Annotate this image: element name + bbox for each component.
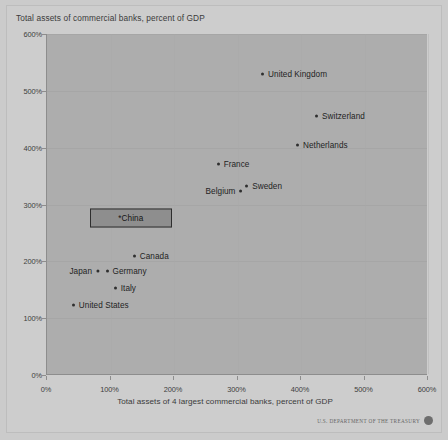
datapoint-label: *China	[118, 213, 143, 222]
datapoint-label: Belgium	[206, 186, 236, 195]
x-tick-label: 600%	[418, 385, 437, 394]
datapoint-label: Sweden	[252, 182, 282, 191]
plot-area: United KingdomSwitzerlandNetherlandsFran…	[46, 34, 427, 375]
datapoint-label: Italy	[121, 284, 136, 293]
vertical-gridline	[111, 34, 112, 374]
vertical-gridline	[174, 34, 175, 374]
x-tick-mark	[364, 376, 365, 380]
y-tick-mark	[42, 148, 46, 149]
datapoint-marker	[296, 143, 299, 146]
datapoint[interactable]: United Kingdom	[261, 69, 327, 78]
y-tick-mark	[42, 318, 46, 319]
datapoint-marker	[106, 269, 109, 272]
y-tick-label: 600%	[23, 30, 42, 39]
treasury-seal-icon	[424, 416, 433, 425]
datapoint-label: United Kingdom	[268, 69, 327, 78]
vertical-gridline	[365, 34, 366, 374]
y-axis-tick-labels: 0%100%200%300%400%500%600%	[11, 34, 42, 375]
footer-attribution: U.S. DEPARTMENT OF THE TREASURY	[317, 416, 433, 425]
datapoint-marker	[261, 72, 264, 75]
x-tick-label: 400%	[291, 385, 310, 394]
x-tick-mark	[237, 376, 238, 380]
y-tick-label: 200%	[23, 257, 42, 266]
datapoint[interactable]: Germany	[106, 266, 147, 275]
datapoint[interactable]: Japan	[69, 266, 99, 275]
datapoint[interactable]: Netherlands	[296, 140, 348, 149]
datapoint-marker	[315, 115, 318, 118]
datapoint-label: Canada	[140, 251, 169, 260]
x-tick-label: 500%	[354, 385, 373, 394]
vertical-gridline	[301, 34, 302, 374]
x-axis-title: Total assets of 4 largest commercial ban…	[7, 397, 443, 406]
datapoint-marker	[72, 304, 75, 307]
datapoint-marker	[240, 189, 243, 192]
x-tick-mark	[300, 376, 301, 380]
x-tick-label: 0%	[41, 385, 51, 394]
x-tick-label: 300%	[227, 385, 246, 394]
x-tick-mark	[110, 376, 111, 380]
datapoint-highlight-china[interactable]: *China	[90, 208, 172, 227]
datapoint[interactable]: France	[217, 159, 250, 168]
chart-title: Total assets of commercial banks, percen…	[16, 13, 205, 23]
x-tick-mark	[427, 376, 428, 380]
datapoint[interactable]: United States	[72, 301, 129, 310]
y-tick-label: 0%	[32, 371, 42, 380]
datapoint-marker	[114, 287, 117, 290]
y-tick-mark	[42, 205, 46, 206]
datapoint-label: Netherlands	[303, 140, 348, 149]
datapoint-label: United States	[79, 301, 129, 310]
datapoint[interactable]: Belgium	[206, 186, 243, 195]
datapoint-marker	[245, 185, 248, 188]
x-tick-mark	[46, 376, 47, 380]
chart-figure: Total assets of commercial banks, percen…	[6, 5, 442, 433]
datapoint[interactable]: Switzerland	[315, 112, 365, 121]
y-tick-label: 300%	[23, 200, 42, 209]
x-tick-label: 200%	[164, 385, 183, 394]
x-tick-mark	[173, 376, 174, 380]
y-tick-label: 100%	[23, 314, 42, 323]
y-tick-label: 500%	[23, 86, 42, 95]
datapoint-marker	[96, 269, 99, 272]
datapoint-label: Switzerland	[322, 112, 365, 121]
x-axis-tick-labels: 0%100%200%300%400%500%600%	[46, 380, 427, 394]
y-tick-label: 400%	[23, 143, 42, 152]
datapoint[interactable]: Italy	[114, 284, 136, 293]
vertical-gridline	[428, 34, 429, 374]
x-tick-label: 100%	[100, 385, 119, 394]
vertical-gridline	[238, 34, 239, 374]
y-tick-mark	[42, 261, 46, 262]
datapoint-marker	[133, 254, 136, 257]
datapoint[interactable]: Canada	[133, 251, 169, 260]
y-tick-mark	[42, 34, 46, 35]
datapoint[interactable]: Sweden	[245, 182, 282, 191]
datapoint-label: Germany	[113, 266, 147, 275]
datapoint-label: Japan	[69, 266, 92, 275]
datapoint-marker	[217, 162, 220, 165]
treasury-label: U.S. DEPARTMENT OF THE TREASURY	[317, 418, 420, 424]
y-tick-mark	[42, 91, 46, 92]
datapoint-label: France	[224, 159, 250, 168]
